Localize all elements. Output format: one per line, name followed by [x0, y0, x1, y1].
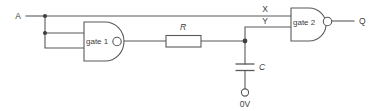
- resistor-body: [166, 36, 201, 48]
- circuit-schematic-canvas: A X Y Q gate 1 gate 2 R C 0V: [0, 0, 373, 111]
- wire-gate1-input2: [45, 33, 84, 48]
- label-input-a: A: [15, 11, 21, 21]
- circuit-diagram: A X Y Q gate 1 gate 2 R C 0V: [0, 0, 373, 111]
- label-node-x: X: [262, 4, 268, 14]
- junction-dot-y: [243, 39, 248, 44]
- label-output-q: Q: [359, 16, 366, 26]
- label-node-y: Y: [262, 16, 268, 26]
- gate2-inversion-bubble-icon: [323, 17, 331, 25]
- label-gate1: gate 1: [86, 37, 109, 46]
- junction-dot-a-top: [43, 14, 47, 18]
- label-ground-0v: 0V: [240, 99, 251, 109]
- label-gate2: gate 2: [293, 18, 316, 27]
- ground-terminal-circle: [241, 89, 248, 96]
- label-resistor-r: R: [180, 22, 186, 32]
- label-capacitor-c: C: [259, 62, 266, 72]
- junction-dot-a-lower: [43, 31, 47, 35]
- gate1-inversion-bubble-icon: [113, 37, 121, 45]
- wire-y-to-gate2: [245, 27, 291, 41]
